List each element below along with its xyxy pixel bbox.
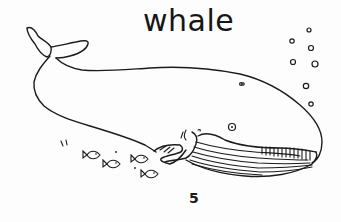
whale-mark	[198, 130, 200, 131]
whale-baleen	[262, 147, 310, 160]
book-page: whale 5	[0, 0, 341, 222]
bubble	[290, 39, 294, 43]
whale-tail-right	[51, 41, 88, 58]
whale-pupil	[231, 126, 233, 128]
fish-school	[61, 140, 158, 178]
bubble	[307, 28, 311, 32]
bubble	[309, 46, 314, 51]
bubble	[312, 61, 318, 67]
fish	[103, 160, 120, 168]
bubble	[291, 60, 296, 65]
bubble	[309, 102, 313, 106]
whale-mark	[185, 130, 187, 140]
fish	[141, 170, 158, 178]
whale-back	[56, 58, 322, 163]
bubbles	[242, 28, 318, 106]
bubble	[242, 83, 244, 85]
page-title: whale	[143, 6, 234, 36]
whale-tail	[27, 27, 51, 57]
particle	[134, 167, 136, 169]
fish	[131, 155, 148, 163]
water-marks	[61, 140, 67, 146]
whale	[27, 27, 322, 176]
particle	[115, 151, 117, 153]
whale-mark	[181, 132, 183, 138]
page-number: 5	[189, 190, 199, 206]
bubble	[303, 83, 308, 88]
fish	[83, 151, 100, 159]
